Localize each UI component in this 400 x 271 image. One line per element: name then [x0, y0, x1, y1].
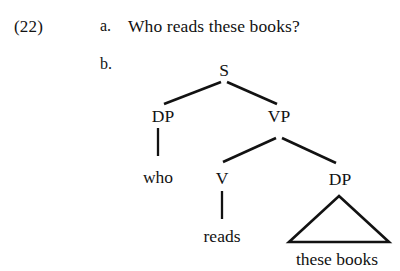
tree-node-s: S [219, 60, 229, 80]
edge-s-to-vp [227, 82, 277, 104]
tree-node-dp-subject: DP [152, 106, 175, 126]
tree-node-vp: VP [268, 106, 291, 126]
edge-vp-to-dp-object [282, 138, 336, 163]
edge-s-to-dp-subject [164, 82, 221, 104]
tree-node-v: V [216, 168, 229, 188]
example-figure: (22) a. Who reads these books? b. S DP V… [0, 0, 400, 271]
tree-terminal-reads: reads [204, 226, 241, 246]
syntax-tree: S DP VP who V reads DP these books [0, 0, 400, 271]
tree-terminal-these-books: these books [296, 249, 378, 269]
tree-node-dp-object: DP [329, 169, 352, 189]
edge-vp-to-v [223, 138, 276, 162]
constituent-triangle [289, 196, 389, 242]
tree-terminal-who: who [143, 167, 173, 187]
